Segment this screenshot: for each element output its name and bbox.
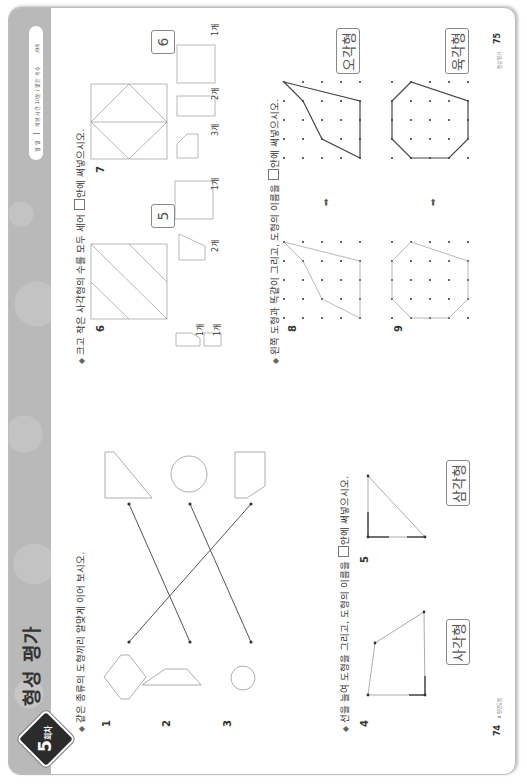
answer-box-8[interactable]: 오각형 xyxy=(336,28,360,74)
right-arrow-icon: ➡ xyxy=(428,198,438,206)
worksheet-viewport: 5회차 형성 평가 월 일 제한 시간 10분 / 맞은 개수 /9개 ◆같은 … xyxy=(0,0,527,784)
page-number-right: 75 xyxy=(493,33,502,44)
dot-grid-9-answer[interactable] xyxy=(391,81,469,159)
dot-grid-diagram: ➡ ➡ xyxy=(9,8,515,774)
right-arrow-icon: ➡ xyxy=(321,198,331,206)
section-label: 형성 평가 xyxy=(496,52,502,69)
answer-box-9[interactable]: 육각형 xyxy=(445,28,469,74)
workbook-spread: 5회차 형성 평가 월 일 제한 시간 10분 / 맞은 개수 /9개 ◆같은 … xyxy=(0,0,527,784)
dot-grid-9-model xyxy=(391,241,469,319)
worksheet-page: 5회차 형성 평가 월 일 제한 시간 10분 / 맞은 개수 /9개 ◆같은 … xyxy=(8,7,516,775)
